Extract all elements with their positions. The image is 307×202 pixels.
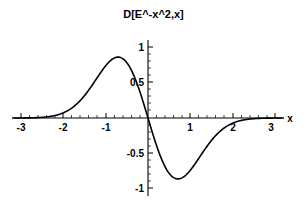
- chart-canvas: -3 -2 -1 1 2 3 1 0.5 -0.5 -1 x: [0, 0, 307, 202]
- plot-figure: D[E^-x^2,x]: [0, 0, 307, 202]
- xtick-label-1: 1: [187, 122, 193, 133]
- ytick-label-neg0point5: -0.5: [127, 148, 145, 159]
- xtick-label-3: 3: [268, 122, 274, 133]
- ytick-label-1: 1: [138, 42, 144, 53]
- xtick-label-neg1: -1: [102, 122, 111, 133]
- ytick-label-neg1: -1: [135, 183, 144, 194]
- xtick-label-neg3: -3: [17, 122, 26, 133]
- xtick-label-neg2: -2: [59, 122, 68, 133]
- x-axis-label: x: [287, 113, 293, 124]
